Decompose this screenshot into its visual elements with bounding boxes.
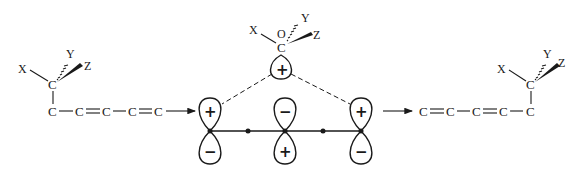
ts-wedge-bond-z [287, 32, 313, 44]
ts-sub-x: X [249, 23, 258, 37]
left-chain-c1: C [48, 104, 57, 119]
right-bond-double-1 [430, 109, 444, 113]
ts-orbital-label: O [277, 27, 286, 41]
ts-top-carbon: C [277, 40, 286, 55]
ts-bond-x [261, 34, 276, 43]
sigmatropic-shift-diagram: X Y Z C C C C C C [0, 0, 584, 179]
ts-midpoint-dot-2 [321, 129, 326, 134]
right-sub-z: Z [558, 56, 565, 70]
right-bond-double-2 [483, 109, 497, 113]
right-chain-c1: C [419, 104, 428, 119]
left-sub-z: Z [84, 59, 91, 73]
p-orbital-1-bottom-sign: − [204, 143, 217, 161]
right-wedge-bond-z [535, 63, 560, 82]
ts-sub-z: Z [313, 28, 320, 42]
right-chain-c2: C [446, 104, 455, 119]
right-chain-c4: C [499, 104, 508, 119]
p-orbital-3-bottom-sign: − [355, 143, 368, 161]
p-orbital-3-top-sign: + [355, 103, 368, 121]
ts-sub-y: Y [301, 11, 310, 25]
ts-top-lobe-sign: + [276, 61, 289, 79]
right-migrating-carbon: C [526, 77, 535, 92]
right-sub-y: Y [543, 47, 552, 61]
ts-midpoint-dot-1 [246, 129, 251, 134]
p-orbital-1-top-sign: + [204, 103, 217, 121]
left-chain-c2: C [75, 104, 84, 119]
right-chain-c5: C [526, 104, 535, 119]
left-sub-x: X [18, 62, 27, 76]
left-sub-y: Y [66, 47, 75, 61]
right-bond-x [509, 70, 526, 81]
ts-dashed-left [222, 74, 272, 104]
right-chain-c3: C [472, 104, 481, 119]
left-migrating-carbon: C [48, 77, 57, 92]
left-bond-double-1 [86, 109, 100, 113]
left-bond-double-2 [139, 109, 152, 113]
right-sub-x: X [497, 62, 506, 76]
ts-hashed-bond-y [287, 25, 298, 41]
left-chain-c4: C [128, 104, 137, 119]
p-orbital-2-bottom-sign: + [279, 143, 292, 161]
left-bond-x [30, 70, 48, 81]
left-chain-c3: C [102, 104, 111, 119]
left-wedge-bond-z [57, 63, 83, 82]
ts-dashed-right [291, 74, 350, 104]
p-orbital-2-top-sign: − [279, 103, 292, 121]
left-chain-c5: C [154, 104, 163, 119]
transition-state: X Y Z O C + + − [199, 11, 372, 164]
right-molecule: C C C C C C X Y Z [419, 47, 565, 119]
left-molecule: X Y Z C C C C C C [18, 47, 163, 119]
